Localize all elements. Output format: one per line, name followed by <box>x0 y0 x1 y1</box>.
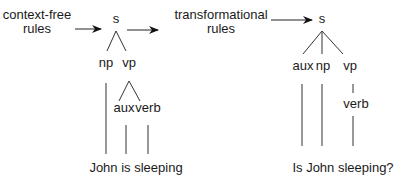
left-node-vp: vp <box>122 56 136 70</box>
diagram-lines <box>0 0 403 182</box>
right-node-verb: verb <box>343 97 368 111</box>
right-node-np: np <box>316 59 330 73</box>
left-node-np: np <box>99 56 113 70</box>
context-free-label-line1: context-free <box>3 8 72 22</box>
context-free-label-line2: rules <box>23 22 51 36</box>
right-sentence: Is John sleeping? <box>292 161 393 175</box>
left-node-verb: verb <box>135 101 160 115</box>
left-node-aux: aux <box>114 101 135 115</box>
right-node-aux: aux <box>293 59 314 73</box>
transformational-label-line1: transformational <box>174 8 267 22</box>
transformational-label-line2: rules <box>207 22 235 36</box>
right-node-s: s <box>319 12 326 26</box>
left-node-s: s <box>113 12 120 26</box>
right-node-vp: vp <box>343 59 357 73</box>
left-sentence: John is sleeping <box>89 161 182 175</box>
